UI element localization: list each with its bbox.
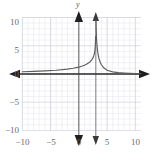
y-tick-label-neg10: −10: [0, 126, 19, 135]
y-tick-label-neg5: −5: [0, 98, 19, 107]
y-axis-label: y: [76, 1, 80, 9]
y-tick-label-5: 5: [0, 46, 19, 55]
y-axis: [75, 11, 83, 146]
x-tick-label-0: 0: [70, 138, 88, 147]
graph-figure: 10 5 0 −5 −10 −10 −5 0 5 10 y: [0, 0, 152, 157]
coordinate-plane: [0, 0, 152, 157]
x-tick-label-5: 5: [98, 138, 116, 147]
x-tick-label-neg10: −10: [10, 138, 35, 147]
y-tick-label-10: 10: [0, 18, 19, 27]
x-tick-label-neg5: −5: [39, 138, 63, 147]
x-tick-label-10: 10: [125, 138, 146, 147]
y-tick-label-0: 0: [0, 70, 19, 79]
